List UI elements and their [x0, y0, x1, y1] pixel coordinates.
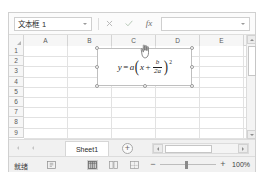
- gridline-horizontal: [24, 117, 255, 118]
- row-header-6[interactable]: 6: [9, 97, 23, 107]
- equation-content: y = a ( x + b 2a ) 2: [118, 59, 172, 74]
- status-label: 就绪: [14, 161, 28, 171]
- row-header-3[interactable]: 3: [9, 66, 23, 76]
- formula-bar-buttons: fx: [104, 18, 154, 30]
- chevron-down-icon[interactable]: [83, 23, 87, 25]
- sheet-nav-prev-button[interactable]: [30, 144, 36, 152]
- column-header-b[interactable]: B: [68, 35, 112, 46]
- triangle-left-icon: [17, 146, 19, 150]
- page-layout-view-button[interactable]: [108, 160, 119, 170]
- equation-fraction: b 2a: [153, 59, 162, 74]
- fraction-denominator: 2a: [153, 67, 162, 74]
- formula-bar-divider: [98, 18, 99, 30]
- zoom-slider-track: [160, 164, 216, 165]
- formula-input[interactable]: [161, 17, 250, 31]
- resize-handle-bottom-center[interactable]: [143, 84, 147, 88]
- gridline-horizontal: [24, 87, 255, 88]
- confirm-check-icon[interactable]: [124, 18, 134, 30]
- add-sheet-button[interactable]: +: [122, 143, 133, 154]
- left-paren: (: [135, 60, 139, 74]
- resize-handle-top-center[interactable]: [143, 46, 147, 50]
- resize-handle-middle-left[interactable]: [95, 65, 99, 69]
- scroll-down-button[interactable]: [247, 130, 256, 139]
- scroll-left-button[interactable]: [153, 144, 163, 153]
- gridline-horizontal: [24, 97, 255, 98]
- status-bar: 就绪: [9, 156, 255, 172]
- gridline-vertical: [67, 46, 68, 139]
- column-header-c[interactable]: C: [112, 35, 156, 46]
- equation-plus: +: [145, 62, 150, 72]
- resize-handle-middle-right[interactable]: [190, 65, 194, 69]
- zoom-out-button[interactable]: −: [150, 160, 156, 169]
- row-header-5[interactable]: 5: [9, 87, 23, 97]
- zoom-controls: − + 100%: [150, 160, 250, 169]
- gridline-vertical: [243, 46, 244, 139]
- row-header-2[interactable]: 2: [9, 56, 23, 66]
- sheet-tab-sheet1[interactable]: Sheet1: [65, 141, 109, 157]
- column-header-d[interactable]: D: [156, 35, 200, 46]
- gridline-horizontal: [24, 128, 255, 129]
- equation-lhs: y: [118, 62, 122, 72]
- row-headers: 1 2 3 4 5 6 7 8 9: [9, 46, 24, 138]
- row-header-8[interactable]: 8: [9, 117, 23, 127]
- worksheet-grid[interactable]: A B C D E 1 2 3 4 5 6 7 8 9: [9, 35, 255, 139]
- excel-window-screenshot: 文本框 1 fx: [0, 0, 265, 185]
- horizontal-scrollbar[interactable]: [152, 143, 249, 154]
- select-all-triangle-icon: [17, 41, 21, 45]
- triangle-right-icon: [242, 147, 244, 151]
- equation-coefficient: a: [130, 62, 135, 72]
- spreadsheet-window: 文本框 1 fx: [8, 12, 256, 172]
- sheet-nav-first-button[interactable]: [15, 144, 21, 152]
- triangle-left-icon: [32, 146, 34, 150]
- row-header-1[interactable]: 1: [9, 46, 23, 56]
- select-all-button[interactable]: [9, 35, 24, 46]
- right-paren: ): [164, 60, 168, 74]
- row-header-7[interactable]: 7: [9, 107, 23, 117]
- fraction-numerator: b: [155, 59, 161, 66]
- insert-function-icon[interactable]: fx: [144, 18, 154, 30]
- zoom-in-button[interactable]: +: [220, 160, 226, 169]
- equation-exponent: 2: [169, 59, 172, 65]
- normal-view-button[interactable]: [87, 160, 98, 170]
- resize-handle-bottom-left[interactable]: [95, 84, 99, 88]
- resize-handle-bottom-right[interactable]: [190, 84, 194, 88]
- horizontal-scroll-thumb[interactable]: [165, 145, 212, 153]
- row-header-9[interactable]: 9: [9, 128, 23, 138]
- name-box[interactable]: 文本框 1: [14, 17, 92, 31]
- resize-handle-top-right[interactable]: [190, 46, 194, 50]
- vertical-scroll-thumb[interactable]: [248, 46, 256, 76]
- name-box-value: 文本框 1: [15, 18, 46, 29]
- sheet-nav-buttons: [15, 144, 36, 152]
- equation-equals: =: [123, 62, 128, 72]
- scroll-up-button[interactable]: [247, 35, 256, 44]
- triangle-up-icon: [250, 39, 254, 41]
- column-header-e[interactable]: E: [200, 35, 244, 46]
- resize-handle-top-left[interactable]: [95, 46, 99, 50]
- vertical-scrollbar[interactable]: [246, 35, 255, 139]
- view-mode-buttons: [87, 160, 140, 170]
- plus-icon: +: [125, 144, 130, 153]
- gridline-vertical: [199, 46, 200, 139]
- gridline-horizontal: [24, 107, 255, 108]
- page-break-view-button[interactable]: [129, 160, 140, 170]
- formula-bar-row: 文本框 1 fx: [9, 13, 255, 35]
- triangle-down-icon: [250, 134, 254, 136]
- row-header-4[interactable]: 4: [9, 77, 23, 87]
- accessibility-icon[interactable]: [47, 161, 56, 169]
- triangle-left-icon: [157, 147, 159, 151]
- zoom-level-label[interactable]: 100%: [230, 161, 250, 168]
- scroll-right-button[interactable]: [238, 144, 248, 153]
- sheet-tab-bar: Sheet1 +: [9, 139, 255, 156]
- column-headers: A B C D E: [9, 35, 255, 46]
- zoom-slider-handle[interactable]: [185, 161, 188, 169]
- equation-inner-left: x: [140, 62, 144, 72]
- column-header-a[interactable]: A: [24, 35, 68, 46]
- cancel-icon[interactable]: [104, 18, 114, 30]
- zoom-slider[interactable]: [160, 160, 216, 169]
- chevron-down-icon[interactable]: [241, 23, 245, 25]
- fx-label: fx: [146, 19, 153, 28]
- text-box-shape[interactable]: y = a ( x + b 2a ) 2: [97, 48, 192, 86]
